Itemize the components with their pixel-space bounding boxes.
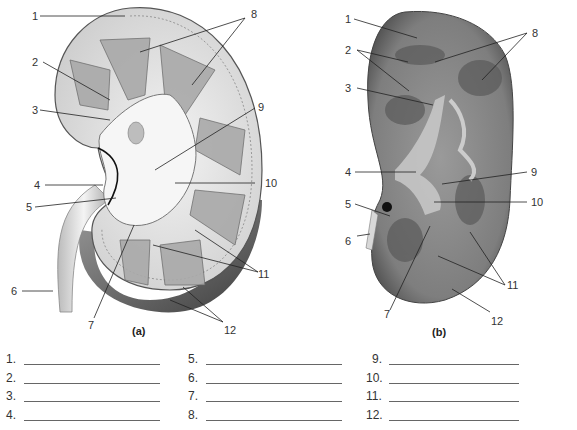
answer-row-6[interactable]: 6. bbox=[188, 371, 358, 387]
answer-row-1[interactable]: 1. bbox=[6, 352, 176, 368]
figure-a-label-11: 11 bbox=[258, 268, 269, 280]
answer-number: 12. bbox=[366, 408, 383, 422]
figure-a-label-12: 12 bbox=[224, 324, 236, 336]
answer-number: 5. bbox=[188, 352, 198, 366]
answer-blank[interactable] bbox=[206, 383, 342, 384]
answer-number: 4. bbox=[6, 408, 16, 422]
kidney-photo-graphic bbox=[320, 0, 577, 340]
figure-b-label-6: 6 bbox=[345, 235, 351, 247]
answer-blank[interactable] bbox=[389, 401, 519, 402]
figure-b-label-5: 5 bbox=[345, 198, 351, 210]
answer-number: 6. bbox=[188, 371, 198, 385]
answer-blank[interactable] bbox=[389, 420, 519, 421]
figure-b-label-2: 2 bbox=[345, 44, 351, 56]
answer-row-4[interactable]: 4. bbox=[6, 408, 176, 424]
answer-row-9[interactable]: 9. bbox=[370, 352, 570, 368]
figure-b-label-4: 4 bbox=[345, 166, 351, 178]
kidney-illustration-graphic bbox=[0, 0, 300, 340]
figure-b-label-11: 11 bbox=[507, 279, 518, 291]
answer-number: 11. bbox=[366, 389, 382, 403]
figure-a-kidney-illustration: 1 8 2 3 9 4 10 5 11 6 7 12 (a) bbox=[0, 0, 300, 340]
answer-row-5[interactable]: 5. bbox=[188, 352, 358, 368]
figure-a-label-8: 8 bbox=[251, 8, 257, 20]
answer-row-8[interactable]: 8. bbox=[188, 408, 358, 424]
answer-blank[interactable] bbox=[206, 364, 342, 365]
figure-a-label-2: 2 bbox=[32, 56, 38, 68]
answer-row-2[interactable]: 2. bbox=[6, 371, 176, 387]
answer-row-3[interactable]: 3. bbox=[6, 389, 176, 405]
figure-a-caption: (a) bbox=[132, 325, 145, 337]
figure-a-label-9: 9 bbox=[258, 101, 264, 113]
answer-number: 8. bbox=[188, 408, 198, 422]
figure-a-label-7: 7 bbox=[88, 319, 94, 331]
answer-blank[interactable] bbox=[389, 383, 519, 384]
figure-b-label-1: 1 bbox=[345, 13, 351, 25]
figure-b-label-9: 9 bbox=[531, 166, 537, 178]
answer-row-7[interactable]: 7. bbox=[188, 389, 358, 405]
figure-b-kidney-photo: 1 8 2 3 4 9 5 10 6 11 7 12 (b) bbox=[320, 0, 577, 340]
answer-number: 10. bbox=[366, 371, 383, 385]
answer-row-10[interactable]: 10. bbox=[366, 371, 566, 387]
figure-a-label-10: 10 bbox=[265, 177, 277, 189]
figure-b-label-3: 3 bbox=[345, 82, 351, 94]
answer-row-12[interactable]: 12. bbox=[366, 408, 566, 424]
answer-blank[interactable] bbox=[206, 401, 342, 402]
figure-b-label-10: 10 bbox=[531, 196, 543, 208]
figure-b-caption: (b) bbox=[432, 326, 446, 338]
figure-b-label-8: 8 bbox=[532, 27, 538, 39]
figure-a-label-4: 4 bbox=[34, 179, 40, 191]
answer-blank[interactable] bbox=[24, 420, 160, 421]
answer-number: 9. bbox=[372, 352, 382, 366]
answer-row-11[interactable]: 11. bbox=[366, 389, 566, 405]
answer-number: 7. bbox=[188, 389, 198, 403]
answer-number: 2. bbox=[6, 371, 16, 385]
answer-blank[interactable] bbox=[206, 420, 342, 421]
answer-blank[interactable] bbox=[389, 364, 519, 365]
figure-b-label-7: 7 bbox=[384, 308, 390, 320]
answer-number: 3. bbox=[6, 389, 16, 403]
answer-blank[interactable] bbox=[24, 383, 160, 384]
figure-a-label-5: 5 bbox=[26, 201, 32, 213]
figure-b-label-12: 12 bbox=[491, 315, 503, 327]
answer-blank[interactable] bbox=[24, 364, 160, 365]
figure-a-label-6: 6 bbox=[11, 285, 17, 297]
figure-a-label-1: 1 bbox=[32, 10, 38, 22]
answer-number: 1. bbox=[6, 352, 16, 366]
figure-a-label-3: 3 bbox=[32, 104, 38, 116]
answer-blank[interactable] bbox=[24, 401, 160, 402]
